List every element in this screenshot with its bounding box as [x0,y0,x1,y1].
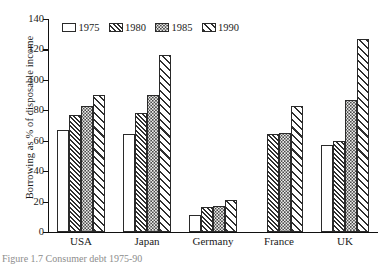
x-axis-label-germany: Germany [180,235,246,247]
legend-item-1975[interactable]: 1975 [62,22,100,33]
bar-germany-1990[interactable] [225,200,237,232]
bar-group-usa: USA [48,19,114,232]
x-axis-label-usa: USA [48,235,114,247]
y-tick-label-60: 60 [4,136,44,147]
bar-group-france: France [246,19,312,232]
x-axis-label-france: France [246,235,312,247]
y-tick-label-120: 120 [4,44,44,55]
figure-caption: Figure 1.7 Consumer debt 1975-90 [2,253,386,264]
y-tick-label-40: 40 [4,166,44,177]
bars [312,19,378,232]
bar-uk-1990[interactable] [357,39,369,232]
bars [246,19,312,232]
bar-japan-1975[interactable] [123,134,135,231]
bar-groups: USAJapanGermanyFranceUK [48,19,378,232]
bar-germany-1985[interactable] [213,206,225,232]
legend-swatch-1975-icon [62,23,76,32]
bar-usa-1985[interactable] [81,106,93,232]
legend-item-1985[interactable]: 1985 [155,22,193,33]
bar-usa-1990[interactable] [93,95,105,232]
bar-japan-1985[interactable] [147,95,159,232]
legend-label-1990: 1990 [218,22,239,33]
bar-france-1990[interactable] [291,106,303,232]
legend-label-1975: 1975 [79,22,100,33]
y-tick-label-140: 140 [4,14,44,25]
x-axis-label-uk: UK [312,235,378,247]
bar-uk-1980[interactable] [333,141,345,232]
legend-item-1990[interactable]: 1990 [202,22,240,33]
y-tick-label-100: 100 [4,75,44,86]
legend-item-1980[interactable]: 1980 [109,22,147,33]
figure-container: Borrowing as % of disposable income 140 … [0,0,388,266]
x-axis-line [48,232,378,233]
y-tick-label-80: 80 [4,105,44,116]
bar-france-1985[interactable] [279,133,291,232]
legend-label-1980: 1980 [125,22,146,33]
bar-japan-1990[interactable] [159,55,171,231]
bar-usa-1975[interactable] [57,130,69,232]
bar-uk-1985[interactable] [345,100,357,232]
bar-germany-1975[interactable] [189,215,201,232]
bar-group-japan: Japan [114,19,180,232]
chart-legend: 1975 1980 1985 1990 [62,22,239,33]
legend-swatch-1980-icon [109,23,123,32]
bar-germany-1980[interactable] [201,207,213,231]
y-tick-label-20: 20 [4,197,44,208]
y-tick-label-0: 0 [4,227,44,238]
bar-uk-1975[interactable] [321,145,333,232]
bars [48,19,114,232]
bars [114,19,180,232]
bar-japan-1980[interactable] [135,113,147,232]
bar-group-uk: UK [312,19,378,232]
bars [180,19,246,232]
x-axis-label-japan: Japan [114,235,180,247]
legend-label-1985: 1985 [172,22,193,33]
plot-area: 140 120 100 80 60 40 20 0 USAJapanGerman… [48,19,378,233]
legend-swatch-1990-icon [202,23,216,32]
legend-swatch-1985-icon [155,23,169,32]
bar-usa-1980[interactable] [69,115,81,232]
bar-group-germany: Germany [180,19,246,232]
bar-france-1980[interactable] [267,134,279,231]
